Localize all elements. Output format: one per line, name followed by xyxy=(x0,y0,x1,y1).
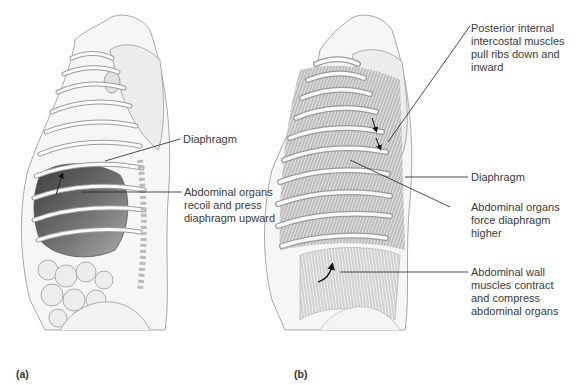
label-diaphragm-b: Diaphragm xyxy=(471,171,525,184)
torso-figure-b xyxy=(265,15,412,330)
label-diaphragm-a: Diaphragm xyxy=(183,133,237,146)
panel-label-b: (b) xyxy=(294,368,307,380)
panel-label-a: (a) xyxy=(16,368,29,380)
label-abdominal-organs-force: Abdominal organs force diaphragm higher xyxy=(471,201,560,240)
label-abdominal-wall-muscles: Abdominal wall muscles contract and comp… xyxy=(471,266,558,318)
label-posterior-intercostals: Posterior internal intercostal muscles p… xyxy=(471,22,565,74)
label-abdominal-organs-recoil: Abdominal organs recoil and press diaphr… xyxy=(184,186,275,225)
torso-figure-a xyxy=(21,15,169,330)
